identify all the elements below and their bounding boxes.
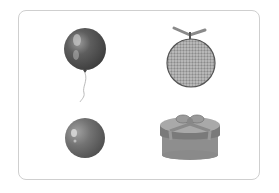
melon-icon (160, 24, 222, 90)
balloon-image (62, 27, 108, 103)
ball-image (63, 116, 107, 160)
balloon-icon (62, 27, 108, 103)
gift-box-icon (158, 111, 222, 165)
gift-box-image (158, 111, 222, 165)
melon-image (160, 24, 222, 90)
picture-card (18, 10, 260, 180)
ball-icon (63, 116, 107, 160)
